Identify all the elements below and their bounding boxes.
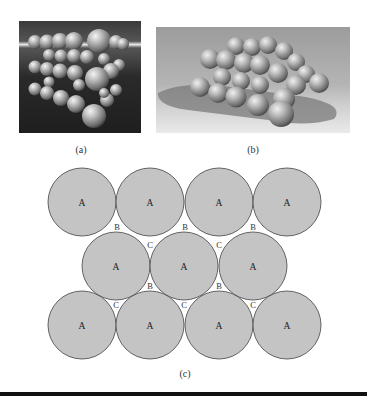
a-site-label: A [284,321,291,331]
close-packing-diagram: AAAAAAAAAAABBBCCBBCCC [0,0,367,396]
a-site-label: A [216,198,223,208]
a-site-label: A [147,321,154,331]
c-site-label: C [216,240,222,250]
a-site-label: A [113,262,120,272]
a-site-label: A [147,198,154,208]
a-site-label: A [181,262,188,272]
a-site-label: A [284,198,291,208]
b-site-label: B [182,222,188,232]
a-site-label: A [216,321,223,331]
b-site-label: B [114,222,120,232]
c-site-label: C [147,240,153,250]
a-site-label: A [79,321,86,331]
c-site-label: C [250,300,256,310]
a-site-label: A [79,198,86,208]
b-site-label: B [250,222,256,232]
c-site-label: C [113,300,119,310]
caption-c: (c) [179,368,190,379]
a-site-label: A [250,262,257,272]
bottom-divider [0,392,367,396]
b-site-label: B [216,281,222,291]
b-site-label: B [147,281,153,291]
c-site-label: C [181,300,187,310]
